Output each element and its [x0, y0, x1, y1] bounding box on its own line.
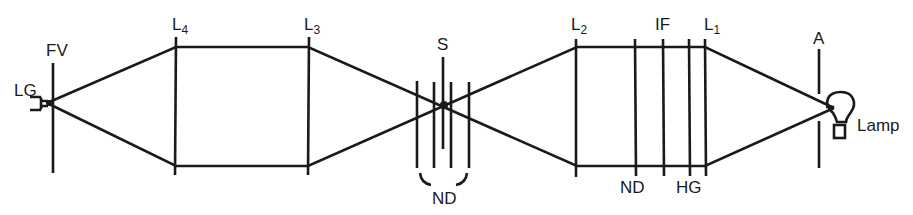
label-lamp: Lamp — [857, 116, 900, 135]
label-l1: L1 — [704, 15, 720, 37]
lens-l4 — [175, 37, 176, 175]
label-l3: L3 — [304, 15, 320, 37]
interference-filter-if — [663, 39, 664, 176]
label-l4: L4 — [172, 15, 188, 37]
label-fv: FV — [46, 41, 68, 60]
optical-diagram: LG FV L4 L3 S ND L2 ND IF HG L1 A Lamp — [0, 0, 913, 215]
lens-l1 — [705, 39, 706, 176]
filter-nd — [635, 39, 636, 176]
label-hg: HG — [676, 178, 702, 197]
heat-glass-hg — [689, 39, 690, 176]
lamp-icon — [826, 92, 854, 138]
label-s: S — [437, 35, 448, 54]
label-nd: ND — [620, 178, 645, 197]
lens-l3 — [308, 37, 309, 175]
nd-bracket-right — [456, 173, 467, 185]
label-a: A — [813, 29, 825, 48]
label-l2: L2 — [571, 15, 587, 37]
focus-point — [440, 101, 448, 109]
label-nd-group: ND — [432, 189, 457, 208]
label-lg: LG — [14, 81, 37, 100]
label-if: IF — [655, 15, 670, 34]
nd-bracket-left — [420, 173, 431, 185]
